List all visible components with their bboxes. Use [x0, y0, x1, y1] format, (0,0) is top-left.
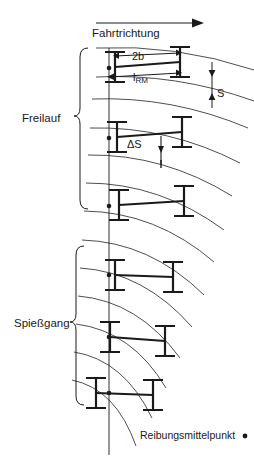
vehicle-symbol — [107, 117, 192, 152]
friction-centre-dot — [107, 335, 112, 340]
group-label-freilauf: Freilauf — [22, 113, 60, 125]
freilauf-brace — [74, 48, 88, 209]
dimension-label-2b: 2b — [132, 51, 144, 62]
arc-2 — [96, 77, 254, 102]
friction-centre-dot — [107, 204, 112, 209]
direction-of-travel-label: Fahrtrichtung — [92, 28, 160, 40]
friction-centre-dot — [107, 66, 112, 71]
dimension-label-delta-s: ΔS — [127, 139, 142, 150]
friction-centre-dot — [107, 136, 112, 141]
legend-label-friction-centre: Reibungsmittelpunkt — [140, 430, 235, 441]
friction-centre-dot — [107, 391, 112, 396]
dimension-delta-s — [158, 136, 164, 168]
arc-7 — [84, 211, 214, 262]
arc-12 — [74, 352, 152, 418]
dimension-label-l-rm-subscript: RM — [135, 76, 147, 85]
track-arcs — [72, 47, 254, 446]
vehicle-symbol — [86, 378, 163, 410]
arc-6 — [86, 183, 224, 230]
vehicle-symbol — [107, 186, 194, 220]
running-behaviour-diagram — [0, 0, 254, 465]
arc-9 — [80, 268, 192, 327]
dimension-s — [209, 62, 216, 108]
friction-centre-dot — [107, 273, 112, 278]
dimension-label-s: S — [217, 88, 224, 99]
legend-dot-marker — [243, 434, 248, 439]
arc-13 — [72, 380, 136, 446]
group-label-spiessgang: Spießgang — [14, 318, 70, 330]
dimension-label-l-rm: lRM — [133, 72, 148, 85]
arc-3 — [92, 99, 248, 128]
